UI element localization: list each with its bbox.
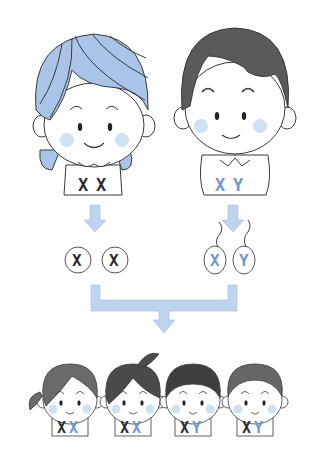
child-figure-boy: XY bbox=[222, 364, 288, 437]
child-ponytail bbox=[137, 353, 159, 368]
child-chromosome-maternal: X bbox=[120, 419, 129, 437]
child-chromosome-maternal: X bbox=[242, 419, 251, 437]
mother-figure: X X bbox=[33, 34, 155, 195]
child-chromosome-paternal: X bbox=[132, 419, 141, 437]
father-chromosome-y: Y bbox=[233, 175, 244, 195]
child-eye bbox=[122, 400, 125, 406]
child-cheek bbox=[83, 405, 92, 414]
sperm-chromosome-y: Y bbox=[239, 251, 249, 270]
child-cheek bbox=[234, 405, 243, 414]
merge-arrow bbox=[91, 285, 237, 333]
child-figure-boy: XY bbox=[160, 364, 226, 437]
child-eye bbox=[182, 400, 185, 406]
eye bbox=[78, 123, 82, 131]
egg-cells: X X bbox=[65, 247, 128, 273]
arrow-down-father bbox=[222, 205, 244, 232]
child-cheek bbox=[112, 405, 121, 414]
child-figure-girl: XX bbox=[29, 364, 103, 437]
egg-chromosome: X bbox=[109, 251, 119, 270]
child-figure-girl: XX bbox=[100, 353, 166, 437]
child-cheek bbox=[172, 405, 181, 414]
child-cheek bbox=[268, 405, 277, 414]
child-eye bbox=[200, 400, 203, 406]
child-chromosome-paternal: Y bbox=[254, 419, 263, 437]
child-chromosome-maternal: X bbox=[180, 419, 189, 437]
child-chromosome-maternal: X bbox=[57, 419, 66, 437]
child-eye bbox=[262, 400, 265, 406]
child-eye bbox=[140, 400, 143, 406]
father-figure: X Y bbox=[174, 28, 296, 195]
sperm-chromosome-x: X bbox=[210, 251, 220, 270]
cheek bbox=[60, 133, 74, 147]
child-eye bbox=[59, 400, 62, 406]
mother-chromosome-x2: X bbox=[96, 175, 107, 195]
father-chromosome-x: X bbox=[215, 175, 226, 195]
cheek bbox=[115, 133, 129, 147]
child-cheek bbox=[206, 405, 215, 414]
child-eye bbox=[244, 400, 247, 406]
arrow-down-mother bbox=[84, 205, 106, 232]
sperm-tail bbox=[244, 220, 250, 247]
egg-chromosome: X bbox=[72, 251, 82, 270]
children-row: XXXXXYXY bbox=[29, 353, 288, 437]
child-chromosome-paternal: X bbox=[69, 419, 78, 437]
sperm-tail bbox=[216, 222, 221, 247]
child-cheek bbox=[146, 405, 155, 414]
child-cheek bbox=[49, 405, 58, 414]
inheritance-diagram: X X X Y X X X Y bbox=[0, 0, 316, 460]
mother-chromosome-x1: X bbox=[78, 175, 89, 195]
eye bbox=[108, 123, 112, 131]
child-chromosome-paternal: Y bbox=[192, 419, 201, 437]
child-eye bbox=[77, 400, 80, 406]
